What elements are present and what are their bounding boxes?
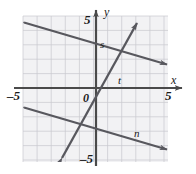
y-axis-label: y xyxy=(104,6,109,18)
x-axis-label: x xyxy=(171,74,176,86)
line-label-s: s xyxy=(100,39,104,50)
origin-label: 0 xyxy=(83,92,89,104)
x-axis-max-label: 5 xyxy=(165,89,172,102)
y-axis-min-label: –5 xyxy=(80,152,93,165)
graph-canvas xyxy=(0,0,196,174)
coordinate-graph-figure: 5 –5 –5 5 0 y x s t n xyxy=(0,0,196,174)
x-axis-min-label: –5 xyxy=(7,89,20,102)
line-label-t: t xyxy=(118,75,121,86)
y-axis-max-label: 5 xyxy=(84,13,91,26)
line-label-n: n xyxy=(134,128,140,139)
